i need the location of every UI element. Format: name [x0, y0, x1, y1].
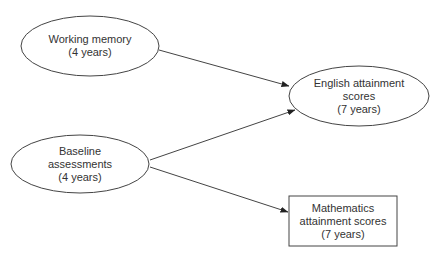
working-memory-line-2: (4 years): [68, 46, 111, 59]
mathematics-line-3: (7 years): [321, 228, 364, 241]
node-baseline-assessments-label: Baseline assessments (4 years): [11, 135, 149, 193]
edge-baseline-to-mathematics: [150, 167, 288, 212]
english-line-2: scores: [343, 90, 375, 103]
edge-baseline-to-english: [150, 110, 295, 160]
node-english-attainment-label: English attainment scores (7 years): [289, 66, 429, 126]
edge-working-memory-to-english: [159, 50, 289, 86]
english-line-1: English attainment: [314, 77, 405, 90]
english-line-3: (7 years): [337, 103, 380, 116]
working-memory-line-1: Working memory: [49, 33, 132, 46]
path-diagram: Working memory (4 years) Baseline assess…: [0, 0, 439, 256]
node-working-memory-label: Working memory (4 years): [21, 16, 159, 76]
baseline-line-1: Baseline: [59, 145, 101, 158]
node-mathematics-attainment-label: Mathematics attainment scores (7 years): [289, 196, 397, 246]
baseline-line-3: (4 years): [58, 171, 101, 184]
mathematics-line-1: Mathematics: [312, 202, 374, 215]
baseline-line-2: assessments: [48, 158, 112, 171]
mathematics-line-2: attainment scores: [300, 215, 387, 228]
